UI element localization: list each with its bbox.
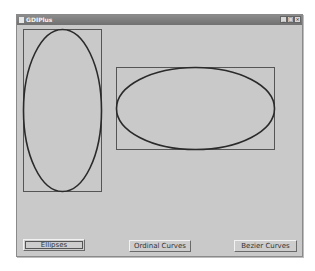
horizontal-ellipse: [117, 68, 275, 150]
window-title: GDIPlus: [26, 15, 52, 25]
ellipses-button[interactable]: Ellipses: [23, 239, 85, 251]
close-button[interactable]: ×: [294, 16, 301, 23]
app-icon: [19, 17, 24, 23]
vertical-ellipse: [24, 30, 102, 192]
minimize-button[interactable]: _: [280, 16, 287, 23]
title-bar[interactable]: GDIPlus _ □ ×: [17, 15, 302, 25]
bezier-curves-button[interactable]: Bezier Curves: [234, 240, 297, 252]
shapes-drawing: [17, 25, 302, 256]
maximize-button[interactable]: □: [287, 16, 294, 23]
ordinal-curves-button[interactable]: Ordinal Curves: [129, 240, 191, 252]
drawing-canvas: Ellipses Ordinal Curves Bezier Curves: [17, 25, 302, 256]
app-window: GDIPlus _ □ × Ellipses Ordinal Curves Be…: [16, 14, 303, 257]
